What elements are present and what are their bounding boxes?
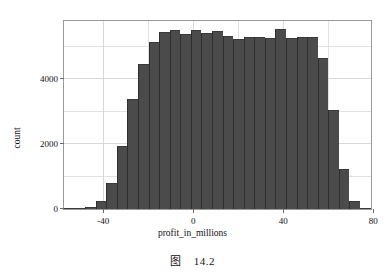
histogram-bar (233, 39, 244, 209)
y-tick-label: 4000 (40, 74, 64, 84)
histogram-bar (96, 201, 107, 209)
histogram-bar (254, 37, 265, 209)
histogram-bar (349, 201, 360, 209)
histogram-bar (170, 30, 181, 209)
histogram-bar (328, 110, 339, 209)
histogram-bar (307, 37, 318, 209)
histogram-bar (275, 29, 286, 209)
y-tick-mark (60, 143, 64, 144)
caption-number: 14.2 (194, 255, 215, 267)
x-tick-mark (103, 209, 104, 213)
histogram-bar (286, 38, 297, 209)
histogram-bar (138, 64, 149, 209)
x-axis-label: profit_in_millions (0, 228, 385, 238)
histogram-bar (75, 208, 86, 209)
x-tick-mark (373, 209, 374, 213)
histogram-bar (127, 99, 138, 209)
histogram-bar (64, 208, 75, 209)
histogram-bar (212, 31, 223, 209)
y-tick-label: 2000 (40, 139, 64, 149)
y-tick-label: 0 (54, 204, 65, 214)
histogram-bar (339, 169, 350, 209)
x-tick-mark (193, 209, 194, 213)
histogram-bar (149, 42, 160, 209)
y-tick-mark (60, 208, 64, 209)
x-tick-mark (283, 209, 284, 213)
histogram-bar (180, 34, 191, 209)
histogram-bar (201, 33, 212, 209)
caption-prefix: 图 (170, 255, 182, 267)
histogram-bar (117, 146, 128, 209)
histogram-bar (191, 30, 202, 209)
histogram-bar (265, 38, 276, 209)
y-axis-label: count (12, 127, 22, 148)
figure-container: 020004000 -4004080 count profit_in_milli… (0, 0, 385, 275)
histogram-bar (85, 207, 96, 209)
figure-caption: 图14.2 (0, 252, 385, 268)
histogram-bar (297, 37, 308, 209)
histogram-bar (223, 36, 234, 209)
y-tick-mark (60, 78, 64, 79)
histogram-bar (318, 58, 329, 209)
histogram-bars (64, 21, 371, 209)
plot-area: 020004000 -4004080 (63, 20, 372, 210)
histogram-bar (244, 37, 255, 209)
histogram-bar (106, 183, 117, 209)
histogram-bar (159, 32, 170, 209)
